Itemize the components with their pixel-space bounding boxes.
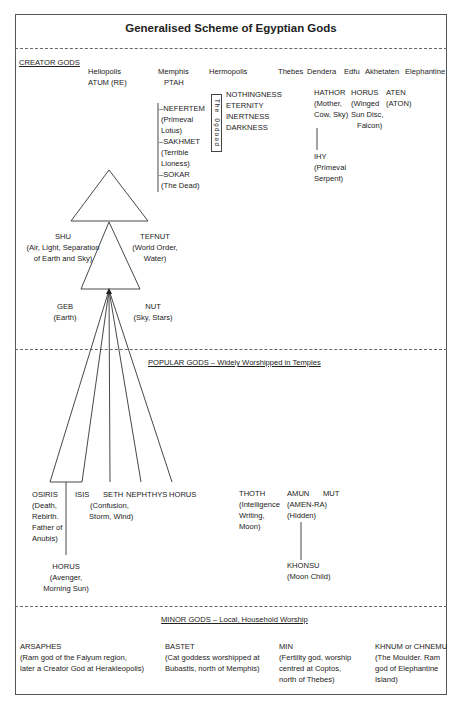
god-name: ARSAPHES	[20, 642, 61, 653]
god-ptah: PTAH	[164, 78, 184, 89]
desc-text: Storm, Wind)	[89, 512, 133, 523]
god-osiris: OSIRIS	[32, 490, 58, 501]
desc-text: Water)	[125, 254, 185, 265]
god-hathor: HATHOR	[314, 88, 346, 99]
god-atum: ATUM (RE)	[88, 78, 127, 89]
place-elephantine: Elephantine	[405, 67, 445, 78]
god-sokar: –SOKAR	[159, 170, 190, 181]
god-mut: MUT	[323, 489, 339, 500]
god-khonsu: KHONSU	[287, 561, 320, 572]
ogdoad-box: The Ogdoad	[211, 94, 222, 152]
desc-text: (Confusion,	[90, 501, 129, 512]
ogdoad-label: The Ogdoad	[213, 99, 220, 147]
god-nut: NUT	[128, 302, 178, 313]
desc-text: (Sky, Stars)	[128, 313, 178, 324]
god-shu: SHU	[18, 232, 108, 243]
desc-text: (Earth)	[45, 313, 85, 324]
desc-text: Sun Disc,	[351, 110, 384, 121]
desc-text: centred at Coptos,	[279, 664, 341, 675]
place-dendera: Dendera	[307, 67, 336, 78]
desc-text: Bubastis, north of Memphis)	[165, 664, 260, 675]
desc-text: Lioness)	[161, 159, 190, 170]
god-name: BASTET	[165, 642, 195, 653]
god-nefertem: –NEFERTEM	[159, 104, 205, 115]
desc-text: Falcon)	[357, 121, 382, 132]
desc-text: (Intelligence	[239, 500, 280, 511]
desc-text: god of Elephantine	[375, 664, 438, 675]
desc-text: (ATON)	[386, 99, 411, 110]
desc-text: (Winged	[351, 99, 379, 110]
desc-text: (Moon Child)	[287, 572, 330, 583]
desc-text: (Air, Light, Separation	[18, 243, 108, 254]
god-amun: AMUN	[287, 489, 309, 500]
desc-text: Rebirth.	[32, 512, 59, 523]
section-label-creator: CREATOR GODS	[19, 58, 80, 67]
desc-text: Father of	[32, 523, 62, 534]
place-heliopolis: Heliopolis	[88, 67, 121, 78]
desc-text: (AMEN-RA)	[287, 500, 327, 511]
desc-text: Writing,	[239, 511, 265, 522]
god-name: KHNUM or CHNEMU	[375, 642, 447, 653]
god-horus-avenger: HORUS	[36, 562, 96, 573]
desc-text: (The Moulder. Ram	[375, 653, 440, 664]
desc-text: north of Thebes)	[279, 675, 335, 686]
god-inertness: INERTNESS	[226, 112, 269, 123]
place-hermopolis: Hermopolis	[209, 67, 247, 78]
desc-text: (Fertility god, worship	[279, 653, 351, 664]
triangle-atum	[71, 170, 148, 221]
god-geb: GEB	[45, 302, 85, 313]
desc-text: (Avenger,	[36, 573, 96, 584]
desc-text: Island)	[375, 675, 398, 686]
place-memphis: Memphis	[158, 67, 189, 78]
desc-text: (Terrible	[161, 148, 188, 159]
god-isis: ISIS	[75, 490, 89, 501]
god-horus: HORUS	[169, 490, 196, 501]
god-horus-edfu: HORUS	[351, 88, 378, 99]
desc-text: (The Dead)	[161, 181, 199, 192]
god-eternity: ETERNITY	[226, 101, 264, 112]
desc-text: of Earth and Sky)	[18, 254, 108, 265]
desc-text: (Mother,	[314, 99, 342, 110]
section-label-minor: MINOR GODS – Local, Household Worship	[161, 615, 308, 624]
desc-text: Cow, Sky)	[314, 110, 348, 121]
desc-text: (Primeval	[161, 115, 193, 126]
desc-text: (Death,	[32, 501, 57, 512]
god-thoth: THOTH	[239, 489, 265, 500]
desc-text: later a Creator God at Herakleopolis)	[20, 664, 144, 675]
desc-text: Serpent)	[314, 174, 343, 185]
desc-text: (Primeval	[314, 163, 346, 174]
god-sakhmet: –SAKHMET	[159, 137, 200, 148]
god-ihy: IHY	[314, 152, 327, 163]
place-akhetaten: Akhetaten	[365, 67, 399, 78]
desc-text: (Ram god of the Faiyum region,	[20, 653, 127, 664]
desc-text: Lotus)	[161, 126, 182, 137]
desc-text: Morning Sun)	[36, 584, 96, 595]
place-thebes: Thebes	[278, 67, 303, 78]
god-darkness: DARKNESS	[226, 123, 268, 134]
place-edfu: Edfu	[344, 67, 360, 78]
desc-text: (World Order,	[125, 243, 185, 254]
desc-text: (Hidden)	[287, 511, 316, 522]
god-seth: SETH	[103, 490, 123, 501]
desc-text: Moon)	[239, 522, 261, 533]
desc-text: Anubis)	[32, 534, 58, 545]
desc-text: (Cat goddess worshipped at	[165, 653, 260, 664]
section-label-popular: POPULAR GODS – Widely Worshipped in Temp…	[148, 358, 321, 367]
god-name: MIN	[279, 642, 293, 653]
god-tefnut: TEFNUT	[125, 232, 185, 243]
god-nephthys: NEPHTHYS	[126, 490, 167, 501]
god-nothingness: NOTHINGNESS	[226, 90, 282, 101]
god-aten: ATEN	[386, 88, 406, 99]
